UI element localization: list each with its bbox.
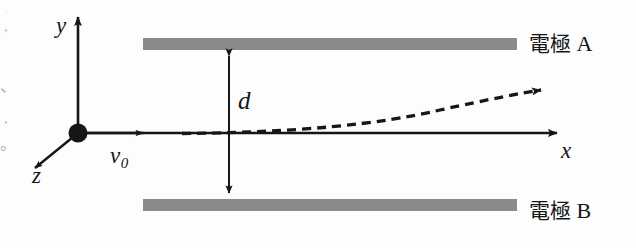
velocity-symbol: v bbox=[110, 143, 120, 168]
z-axis-label: z bbox=[32, 164, 41, 187]
electrode-b-text: 電極 bbox=[529, 199, 571, 223]
physics-diagram: y x z v0 d 電極A 電極B ・ 丶 、 丶 。 ［ bbox=[0, 0, 636, 248]
deflected-beam-path bbox=[182, 90, 541, 134]
edge-artifact: ［ bbox=[0, 200, 7, 217]
initial-velocity-label: v0 bbox=[110, 144, 128, 171]
edge-artifact: 。 bbox=[0, 136, 7, 153]
electrode-a-plate bbox=[143, 38, 517, 50]
gap-distance-label: d bbox=[238, 88, 251, 113]
edge-artifact: ・ bbox=[0, 4, 7, 21]
electrode-a-label: 電極A bbox=[529, 33, 593, 55]
electrode-b-plate bbox=[143, 199, 517, 211]
origin-dot bbox=[69, 124, 88, 143]
velocity-subscript: 0 bbox=[121, 155, 129, 171]
x-axis-label: x bbox=[561, 139, 571, 162]
electrode-a-text: 電極 bbox=[529, 32, 571, 56]
edge-artifact: 丶 bbox=[0, 26, 7, 43]
electrode-a-letter: A bbox=[576, 31, 592, 56]
edge-artifact: 丶 bbox=[0, 118, 7, 135]
electrode-b-label: 電極B bbox=[529, 200, 591, 222]
edge-artifact: 、 bbox=[0, 78, 7, 95]
y-axis-label: y bbox=[56, 14, 66, 37]
electrode-b-letter: B bbox=[576, 198, 591, 223]
